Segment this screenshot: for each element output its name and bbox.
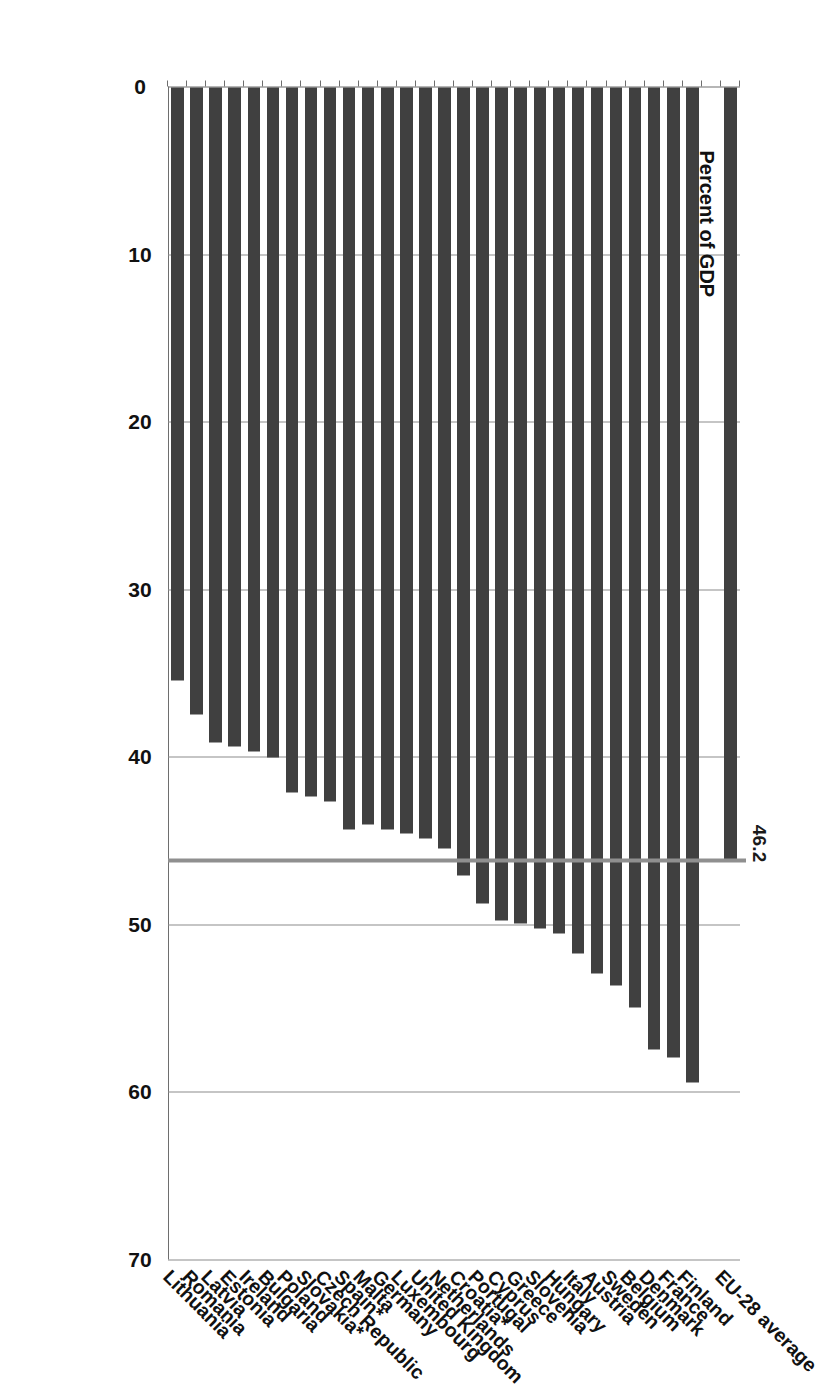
bar	[209, 87, 222, 742]
bar	[267, 87, 280, 757]
eu-average-reference-line	[168, 858, 746, 862]
category-tick-mark	[663, 80, 664, 86]
category-tick-mark	[224, 80, 225, 86]
category-tick-mark	[262, 80, 263, 86]
category-tick-mark	[434, 80, 435, 86]
bar	[572, 87, 585, 953]
category-tick-mark	[682, 80, 683, 86]
category-tick-mark	[205, 80, 206, 86]
category-tick-mark	[358, 80, 359, 86]
category-tick-mark	[396, 80, 397, 86]
value-tick-label-60: 60	[117, 1079, 163, 1103]
bar	[495, 87, 508, 920]
category-tick-mark	[510, 80, 511, 86]
bar	[476, 87, 489, 903]
value-tick-label-10: 10	[117, 242, 163, 266]
category-tick-mark	[644, 80, 645, 86]
category-axis-line	[168, 86, 169, 1259]
bar	[248, 87, 261, 751]
category-tick-mark	[377, 80, 378, 86]
value-tick-label-30: 30	[117, 577, 163, 601]
bar	[324, 87, 337, 801]
category-tick-mark	[586, 80, 587, 86]
bar	[228, 87, 241, 746]
value-tick-label-20: 20	[117, 409, 163, 433]
bar	[362, 87, 375, 824]
category-tick-mark	[491, 80, 492, 86]
bar	[438, 87, 451, 848]
category-tick-mark	[739, 80, 740, 86]
category-tick-mark	[720, 80, 721, 86]
bar	[305, 87, 318, 796]
bar	[514, 87, 527, 923]
bar	[629, 87, 642, 1007]
plot-area: 46.2	[168, 86, 740, 1259]
bar	[286, 87, 299, 792]
category-tick-mark	[339, 80, 340, 86]
value-tick-label-40: 40	[117, 744, 163, 768]
category-tick-mark	[548, 80, 549, 86]
category-tick-mark	[701, 80, 702, 86]
bar	[171, 87, 184, 680]
value-tick-label-0: 0	[117, 74, 163, 98]
bar	[724, 87, 737, 861]
category-tick-mark	[186, 80, 187, 86]
category-tick-mark	[415, 80, 416, 86]
eu-average-reference-label: 46.2	[748, 824, 770, 862]
bar	[610, 87, 623, 985]
category-tick-mark	[300, 80, 301, 86]
value-tick-label-50: 50	[117, 912, 163, 936]
bar	[534, 87, 547, 928]
bar	[190, 87, 203, 714]
category-tick-mark	[529, 80, 530, 86]
category-tick-mark	[281, 80, 282, 86]
category-tick-mark	[606, 80, 607, 86]
bar	[667, 87, 680, 1057]
category-tick-mark	[472, 80, 473, 86]
bar	[343, 87, 356, 829]
bar	[553, 87, 566, 933]
value-axis-title: Percent of GDP	[695, 150, 718, 297]
bar	[419, 87, 432, 838]
category-tick-mark	[567, 80, 568, 86]
value-tick-label-70: 70	[117, 1247, 163, 1271]
category-tick-mark	[243, 80, 244, 86]
category-tick-mark	[453, 80, 454, 86]
category-tick-mark	[625, 80, 626, 86]
bar	[400, 87, 413, 833]
gridline-60	[168, 1091, 740, 1092]
category-tick-mark	[320, 80, 321, 86]
bar	[591, 87, 604, 973]
category-tick-mark	[167, 80, 168, 86]
bar	[381, 87, 394, 829]
bar	[457, 87, 470, 875]
bar	[648, 87, 661, 1049]
gridline-70	[168, 1259, 740, 1260]
